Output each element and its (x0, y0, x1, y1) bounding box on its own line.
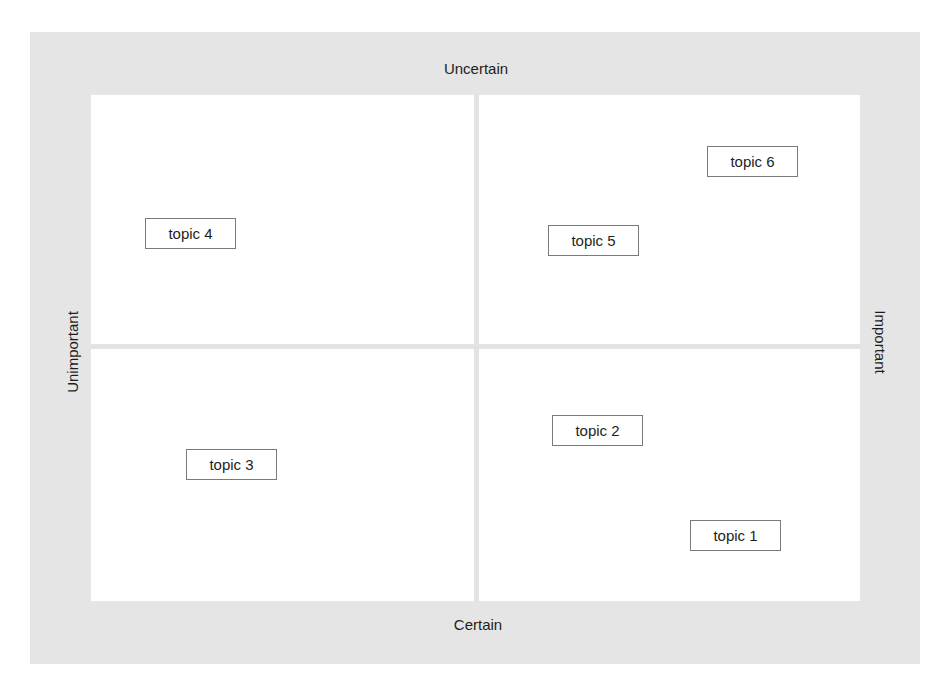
topic-label: topic 6 (730, 153, 774, 170)
topic-label: topic 3 (209, 456, 253, 473)
topic-box-3[interactable]: topic 3 (186, 449, 277, 480)
topic-box-6[interactable]: topic 6 (707, 146, 798, 177)
axis-label-uncertain: Uncertain (444, 61, 508, 76)
topic-label: topic 1 (713, 527, 757, 544)
topic-box-1[interactable]: topic 1 (690, 520, 781, 551)
topic-box-4[interactable]: topic 4 (145, 218, 236, 249)
topic-label: topic 2 (575, 422, 619, 439)
topic-box-2[interactable]: topic 2 (552, 415, 643, 446)
axis-label-certain: Certain (454, 617, 502, 632)
topic-label: topic 4 (168, 225, 212, 242)
axis-label-important: Important (873, 310, 888, 373)
topic-box-5[interactable]: topic 5 (548, 225, 639, 256)
topic-label: topic 5 (571, 232, 615, 249)
axis-label-unimportant: Unimportant (65, 311, 80, 393)
horizontal-divider (91, 344, 860, 349)
